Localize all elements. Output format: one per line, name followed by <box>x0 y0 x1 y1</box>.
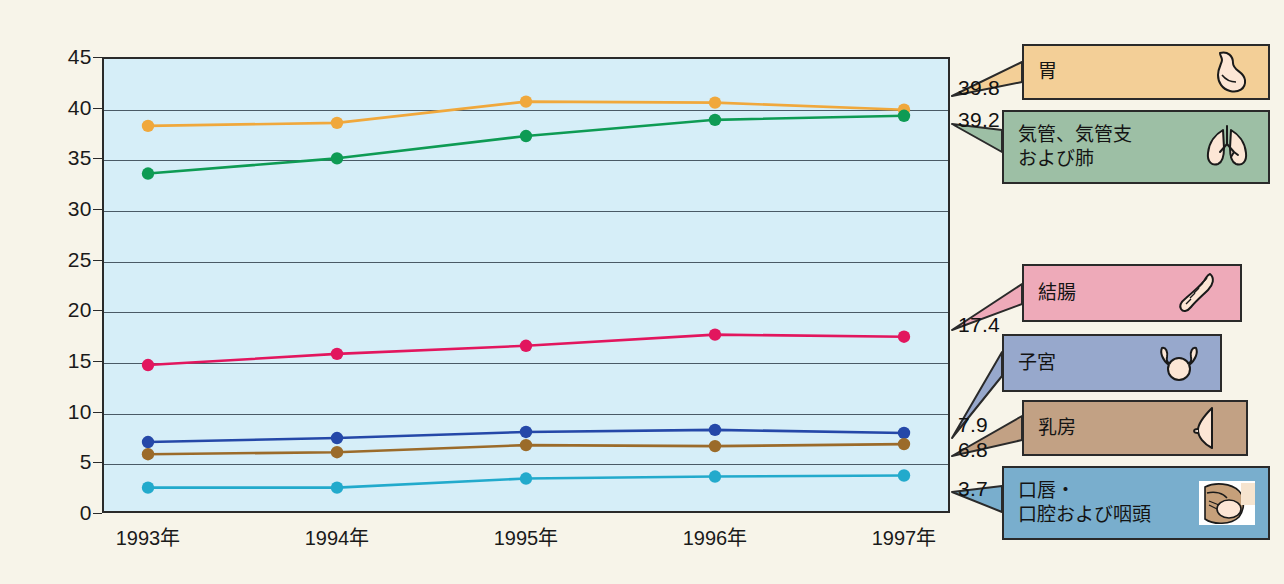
y-axis-tick-mark <box>93 158 102 159</box>
y-axis-tick-label: 10 <box>32 400 92 424</box>
legend-item-label: 子宮 <box>1018 351 1140 375</box>
series-end-value: 17.4 <box>958 313 1000 337</box>
gridline <box>104 211 948 212</box>
y-axis-tick-label: 35 <box>32 146 92 170</box>
x-axis-tick-label: 1997年 <box>872 522 937 551</box>
y-axis-tick-label: 15 <box>32 349 92 373</box>
x-axis-tick-label: 1996年 <box>683 522 748 551</box>
legend-item-label: 気管、気管支 および肺 <box>1018 123 1188 171</box>
legend-item-lungs[interactable]: 気管、気管支 および肺 <box>1002 110 1270 184</box>
x-axis-tick-label: 1993年 <box>116 522 181 551</box>
y-axis-tick-mark <box>93 209 102 210</box>
legend-item-breast[interactable]: 乳房 <box>1022 400 1248 456</box>
y-axis-tick-mark <box>93 260 102 261</box>
y-axis-tick-mark <box>93 108 102 109</box>
y-axis-tick-label: 20 <box>32 298 92 322</box>
y-axis-tick-mark <box>93 462 102 463</box>
chart-figure: 051015202530354045 1993年1994年1995年1996年1… <box>0 0 1284 584</box>
y-axis-tick-mark <box>93 513 102 514</box>
y-axis-tick-label: 0 <box>32 501 92 525</box>
series-end-value: 3.7 <box>958 477 988 501</box>
series-end-value: 39.8 <box>958 76 1000 100</box>
stomach-icon <box>1196 46 1258 98</box>
plot-area <box>102 57 950 513</box>
gridline <box>104 262 948 263</box>
uterus-icon <box>1148 336 1210 390</box>
legend-item-uterus[interactable]: 子宮 <box>1002 334 1222 392</box>
legend-item-label: 乳房 <box>1038 416 1166 440</box>
gridline <box>104 464 948 465</box>
colon-icon <box>1168 266 1230 320</box>
gridline <box>104 363 948 364</box>
series-end-value: 6.8 <box>958 438 988 462</box>
y-axis-tick-label: 40 <box>32 96 92 120</box>
oral-cavity-icon <box>1196 468 1258 538</box>
breast-icon <box>1174 402 1236 454</box>
y-axis-tick-mark <box>93 57 102 58</box>
series-end-value: 7.9 <box>958 413 988 437</box>
y-axis-tick-label: 5 <box>32 450 92 474</box>
y-axis-tick-mark <box>93 412 102 413</box>
lungs-icon <box>1196 112 1258 182</box>
y-axis-tick-mark <box>93 361 102 362</box>
y-axis-tick-mark <box>93 310 102 311</box>
gridline <box>104 414 948 415</box>
legend-item-stomach[interactable]: 胃 <box>1022 44 1270 100</box>
gridline <box>104 312 948 313</box>
gridline <box>104 160 948 161</box>
legend-item-colon[interactable]: 結腸 <box>1022 264 1242 322</box>
y-axis-tick-label: 25 <box>32 248 92 272</box>
legend-item-oral-cavity[interactable]: 口唇・ 口腔および咽頭 <box>1002 466 1270 540</box>
legend-item-label: 胃 <box>1038 60 1188 84</box>
x-axis-tick-label: 1995年 <box>494 522 559 551</box>
y-axis-tick-label: 45 <box>32 45 92 69</box>
series-end-value: 39.2 <box>958 108 1000 132</box>
legend-item-label: 口唇・ 口腔および咽頭 <box>1018 479 1188 527</box>
legend-item-label: 結腸 <box>1038 281 1160 305</box>
x-axis-tick-label: 1994年 <box>305 522 370 551</box>
gridline <box>104 110 948 111</box>
y-axis-tick-label: 30 <box>32 197 92 221</box>
